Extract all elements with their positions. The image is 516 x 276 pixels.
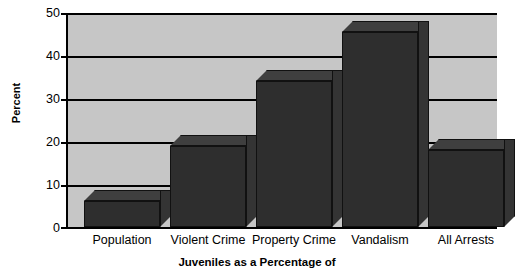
- x-axis-title: Juveniles as a Percentage of: [0, 256, 514, 268]
- bar-front-population: [84, 201, 160, 227]
- x-tick-label-all-arrests: All Arrests: [416, 232, 516, 248]
- bar-top-all-arrests: [428, 139, 515, 150]
- y-tick-label-40: 40: [34, 50, 60, 63]
- y-tick-label-0: 0: [34, 222, 60, 235]
- bar-top-population: [84, 190, 171, 201]
- y-tick-label-10: 10: [34, 179, 60, 192]
- gridline-40: [66, 56, 497, 58]
- bar-property-crime: [256, 81, 332, 227]
- bar-all-arrests: [428, 150, 504, 227]
- y-tick-label-30: 30: [34, 93, 60, 106]
- x-tick-label-property-crime: Property Crime: [244, 232, 344, 248]
- bar-top-property-crime: [256, 70, 343, 81]
- bar-violent-crime: [170, 146, 246, 227]
- bar-front-property-crime: [256, 81, 332, 227]
- y-axis-tick-labels: 50 40 30 20 10 0: [30, 0, 60, 276]
- bar-front-violent-crime: [170, 146, 246, 227]
- y-tick-label-20: 20: [34, 136, 60, 149]
- y-axis-title: Percent: [10, 71, 22, 135]
- y-tick-label-50: 50: [34, 7, 60, 20]
- gridline-50: [66, 13, 497, 15]
- x-tick-label-population: Population: [72, 232, 172, 248]
- x-tick-label-violent-crime: Violent Crime: [158, 232, 258, 248]
- bar-vandalism: [342, 32, 418, 227]
- bar-top-vandalism: [342, 21, 429, 32]
- y-axis-line: [66, 13, 68, 229]
- x-tick-label-vandalism: Vandalism: [330, 232, 430, 248]
- x-axis-tick-labels: Population Violent Crime Property Crime …: [66, 232, 497, 252]
- bar-side-all-arrests: [504, 139, 515, 227]
- bar-front-vandalism: [342, 32, 418, 227]
- bar-front-all-arrests: [428, 150, 504, 227]
- bar-top-violent-crime: [170, 135, 257, 146]
- x-axis-line: [66, 227, 497, 229]
- bar-population: [84, 201, 160, 227]
- plot-area: [66, 13, 497, 229]
